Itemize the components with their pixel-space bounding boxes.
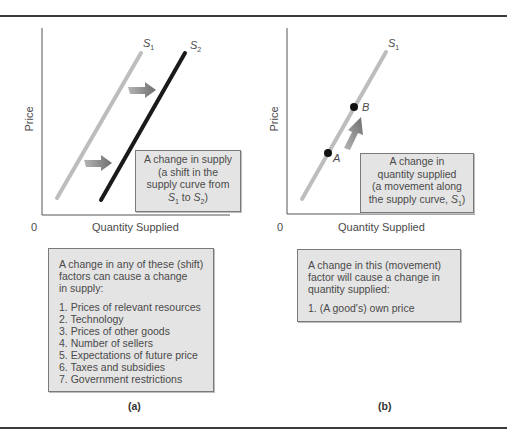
supply-shift-callout: A change in supply (a shift in the suppl… bbox=[135, 150, 241, 212]
factors-intro-line: A change in this (movement) bbox=[308, 259, 452, 271]
factor-item: 4. Number of sellers bbox=[59, 337, 205, 349]
factor-item: 1. (A good's) own price bbox=[308, 302, 452, 314]
shift-factors-list: 1. Prices of relevant resources 2. Techn… bbox=[59, 301, 205, 385]
factor-item: 5. Expectations of future price bbox=[59, 349, 205, 361]
factors-intro-line: factor will cause a change in bbox=[308, 271, 452, 283]
point-label-b: B bbox=[362, 101, 369, 113]
point-label-a: A bbox=[333, 152, 340, 164]
movement-factors-list: 1. (A good's) own price bbox=[308, 302, 452, 314]
callout-line: supply curve from bbox=[147, 178, 230, 191]
x-axis-label-a: Quantity Supplied bbox=[92, 221, 179, 233]
callout-line: A change in bbox=[390, 155, 445, 168]
origin-label-a: 0 bbox=[31, 221, 37, 233]
point-a bbox=[324, 149, 332, 157]
movement-factors-box: A change in this (movement) factor will … bbox=[297, 249, 461, 322]
factor-item: 2. Technology bbox=[59, 313, 205, 325]
factors-intro-line: A change in any of these (shift) bbox=[59, 258, 205, 270]
callout-line: quantity supplied bbox=[378, 168, 457, 181]
curve-label-s1-b: S1 bbox=[388, 37, 399, 51]
curve-label-s1-a: S1 bbox=[143, 37, 154, 51]
x-axis-label-b: Quantity Supplied bbox=[338, 221, 425, 233]
y-axis-label-b: Price bbox=[268, 106, 280, 131]
shift-factors-box: A change in any of these (shift) factors… bbox=[48, 248, 214, 392]
y-axis-label-a: Price bbox=[23, 106, 35, 131]
factors-intro-line: quantity supplied: bbox=[308, 283, 452, 295]
origin-label-b: 0 bbox=[277, 221, 283, 233]
shift-arrow-upper bbox=[128, 82, 156, 98]
callout-line: (a shift in the bbox=[158, 166, 218, 179]
factors-intro-line: in supply: bbox=[59, 282, 205, 294]
factor-item: 1. Prices of relevant resources bbox=[59, 301, 205, 313]
panel-caption-a: (a) bbox=[128, 400, 141, 412]
curve-label-s2-a: S2 bbox=[190, 39, 201, 53]
shift-arrow-lower bbox=[84, 155, 112, 171]
callout-line: S1 to S2) bbox=[168, 191, 208, 209]
factor-item: 3. Prices of other goods bbox=[59, 325, 205, 337]
supply-curve-s1-a bbox=[57, 53, 141, 198]
factors-intro-line: factors can cause a change bbox=[59, 270, 205, 282]
factor-item: 7. Government restrictions bbox=[59, 373, 205, 385]
panel-caption-b: (b) bbox=[378, 400, 391, 412]
callout-line: A change in supply bbox=[144, 153, 232, 166]
callout-line: the supply curve, S1) bbox=[369, 193, 466, 211]
point-b bbox=[350, 103, 358, 111]
callout-line: (a movement along bbox=[372, 180, 462, 193]
quantity-supplied-callout: A change in quantity supplied (a movemen… bbox=[360, 153, 474, 213]
factor-item: 6. Taxes and subsidies bbox=[59, 361, 205, 373]
